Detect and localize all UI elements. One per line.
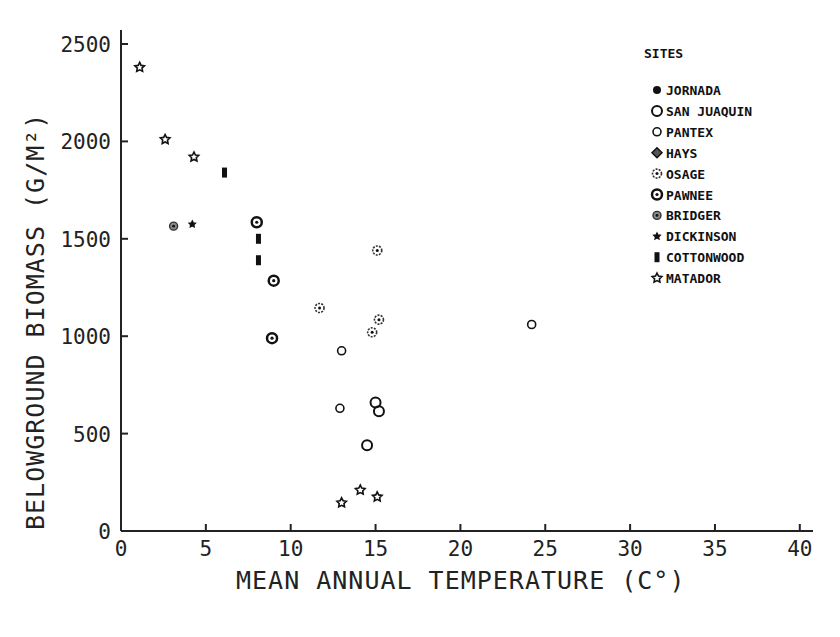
y-tick-label: 2500: [60, 33, 111, 57]
legend-entry-jornada: JORNADA: [653, 83, 721, 98]
legend-marker-icon: [652, 273, 662, 282]
data-point-pantex: [338, 347, 346, 355]
legend-marker-icon: [654, 233, 660, 238]
data-point-bridger: [170, 222, 178, 230]
data-point-pawnee: [267, 333, 277, 343]
legend-label: JORNADA: [666, 83, 721, 98]
x-axis-label: MEAN ANNUAL TEMPERATURE (C°): [236, 566, 685, 595]
data-point-osage: [315, 303, 324, 312]
legend-entry-pantex: PANTEX: [653, 125, 713, 140]
x-tick-label: 30: [617, 537, 642, 561]
legend-entry-hays: HAYS: [652, 146, 697, 161]
legend-label: BRIDGER: [666, 208, 721, 223]
legend-label: OSAGE: [666, 167, 705, 182]
legend-label: PANTEX: [666, 125, 713, 140]
legend-label: SAN JUAQUIN: [666, 104, 752, 119]
legend-marker-icon: [653, 86, 661, 94]
data-point-matador: [373, 492, 383, 501]
data-point-matador: [160, 135, 170, 144]
legend-title: SITES: [644, 46, 683, 61]
x-tick-labels: 0510152025303540: [115, 537, 813, 561]
x-tick-label: 10: [278, 537, 303, 561]
y-tick-label: 2000: [60, 130, 111, 154]
data-point-pawnee: [252, 217, 262, 227]
legend-marker-icon: [652, 148, 662, 158]
data-point-san-juaquin: [374, 406, 384, 416]
legend-marker-icon: [655, 252, 660, 262]
legend-entry-bridger: BRIDGER: [653, 208, 721, 223]
legend-entry-osage: OSAGE: [653, 167, 706, 182]
data-point-osage: [373, 246, 382, 255]
data-point-cottonwood: [256, 255, 261, 265]
legend-label: MATADOR: [666, 271, 721, 286]
data-points: [135, 62, 536, 506]
x-tick-label: 15: [363, 537, 388, 561]
legend-entry-matador: MATADOR: [652, 271, 721, 286]
data-point-san-juaquin: [362, 440, 372, 450]
legend-marker-icon: [652, 106, 662, 116]
legend-marker-icon: [653, 128, 661, 136]
y-axis-label: BELOWGROUND BIOMASS (G/M²): [21, 113, 50, 530]
legend-marker-icon: [653, 211, 661, 219]
legend-label: HAYS: [666, 146, 697, 161]
data-point-pantex: [336, 404, 344, 412]
data-point-matador: [337, 498, 347, 507]
y-tick-label: 1000: [60, 325, 111, 349]
data-point-matador: [135, 62, 145, 71]
data-point-cottonwood: [256, 234, 261, 244]
x-tick-label: 20: [448, 537, 473, 561]
data-point-pawnee: [269, 276, 279, 286]
legend-label: PAWNEE: [666, 188, 713, 203]
legend-entry-cottonwood: COTTONWOOD: [655, 250, 745, 265]
data-point-matador: [189, 152, 199, 161]
x-tick-label: 5: [200, 537, 213, 561]
legend: SITESJORNADASAN JUAQUINPANTEXHAYSOSAGEPA…: [644, 46, 752, 286]
x-tick-label: 25: [533, 537, 558, 561]
data-point-osage: [374, 315, 383, 324]
x-tick-label: 0: [115, 537, 128, 561]
data-point-osage: [368, 328, 377, 337]
y-tick-label: 500: [73, 423, 111, 447]
legend-label: DICKINSON: [666, 229, 737, 244]
legend-entry-pawnee: PAWNEE: [652, 188, 713, 203]
legend-label: COTTONWOOD: [666, 250, 744, 265]
legend-entry-san-juaquin: SAN JUAQUIN: [652, 104, 752, 119]
scatter-chart: 05001000150020002500 0510152025303540 SI…: [0, 0, 840, 637]
legend-entry-dickinson: DICKINSON: [654, 229, 737, 244]
y-tick-label: 1500: [60, 228, 111, 252]
legend-marker-icon: [652, 190, 662, 200]
y-tick-labels: 05001000150020002500: [60, 33, 111, 544]
data-point-dickinson: [189, 221, 195, 226]
legend-marker-icon: [653, 169, 662, 178]
data-point-matador: [356, 485, 366, 494]
x-tick-label: 40: [787, 537, 812, 561]
data-point-cottonwood: [222, 168, 227, 178]
x-tick-label: 35: [702, 537, 727, 561]
data-point-pantex: [528, 321, 536, 329]
y-tick-label: 0: [98, 520, 111, 544]
